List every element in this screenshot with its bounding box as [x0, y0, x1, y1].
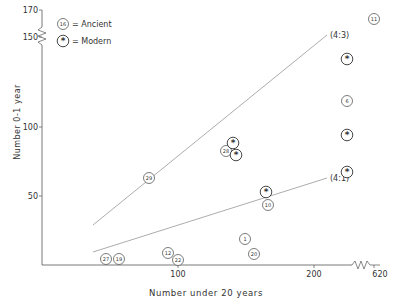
asterisk-icon: *	[234, 150, 239, 160]
legend-ancient-label: = Ancient	[72, 20, 112, 29]
point-label: 11	[371, 16, 377, 22]
modern-point: *	[341, 129, 353, 141]
modern-point: *	[341, 166, 353, 178]
point-label: 19	[116, 256, 122, 262]
point-label: 28	[223, 148, 229, 154]
point-label: 27	[103, 256, 109, 262]
point-label: 16	[60, 21, 66, 27]
point-label: 1	[243, 236, 246, 242]
axes: 10020062050100150170	[23, 6, 388, 279]
ancient-point: 12	[163, 248, 174, 259]
point-label: 10	[265, 202, 271, 208]
ancient-point: 27	[101, 254, 112, 265]
ancient-point: 6	[342, 96, 353, 107]
asterisk-icon: *	[61, 36, 66, 46]
ancient-point: 10	[263, 200, 274, 211]
legend-modern-label: = Modern	[72, 37, 111, 46]
y-axis-break-icon	[38, 27, 46, 45]
point-label: 20	[251, 251, 257, 257]
legend: 16= Ancient*= Modern	[57, 19, 111, 47]
y-axis-label: Number 0-1 year	[13, 84, 22, 160]
asterisk-icon: *	[231, 138, 236, 148]
modern-point: *	[230, 149, 242, 161]
ratio-line	[93, 178, 327, 252]
asterisk-icon: *	[264, 187, 269, 197]
point-label: 22	[175, 257, 181, 263]
ancient-point: 19	[114, 254, 125, 265]
modern-point: *	[57, 35, 69, 47]
x-tick-label: 100	[170, 270, 185, 279]
ancient-point: 16	[58, 19, 69, 30]
ancient-point: 29	[144, 173, 155, 184]
ancient-point: 22	[173, 255, 184, 266]
ancient-point: 11	[369, 14, 380, 25]
reference-lines: (4:3)(4:1)	[93, 31, 349, 252]
x-tick-label: 620	[372, 270, 387, 279]
point-label: 12	[165, 250, 171, 256]
x-tick-label: 200	[306, 270, 321, 279]
modern-point: *	[341, 53, 353, 65]
data-points: 11629281012012222719******	[101, 14, 380, 266]
ancient-point: 1	[240, 234, 251, 245]
ancient-point: 20	[249, 249, 260, 260]
modern-point: *	[260, 186, 272, 198]
y-tick-label: 100	[23, 123, 38, 132]
y-tick-label: 50	[28, 192, 38, 201]
scatter-plot: 10020062050100150170 (4:3)(4:1) 11629281…	[0, 0, 394, 307]
x-axis-label: Number under 20 years	[149, 288, 263, 298]
ratio-line-label: (4:3)	[330, 31, 349, 40]
x-axis-break-icon	[352, 261, 380, 269]
y-tick-label: 170	[23, 6, 38, 15]
asterisk-icon: *	[345, 167, 350, 177]
point-label: 6	[345, 98, 348, 104]
ratio-line	[93, 35, 327, 225]
modern-point: *	[227, 137, 239, 149]
y-tick-label: 150	[23, 33, 38, 42]
asterisk-icon: *	[345, 130, 350, 140]
point-label: 29	[146, 175, 152, 181]
asterisk-icon: *	[345, 54, 350, 64]
